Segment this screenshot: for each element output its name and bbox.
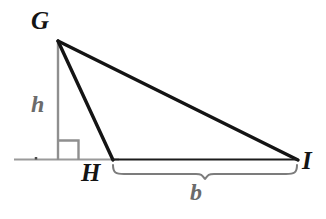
vertex-label-I: I [302,148,312,173]
base-brace [113,165,297,179]
base-label-b: b [190,180,202,204]
triangle-side-GI [58,41,298,160]
height-label-h: h [31,92,44,116]
vertex-label-G: G [31,8,49,33]
geometry-figure: G H I h b [0,0,326,219]
vertex-label-H: H [81,160,100,185]
triangle-side-GH [58,41,113,160]
right-angle-marker-icon [58,141,79,161]
